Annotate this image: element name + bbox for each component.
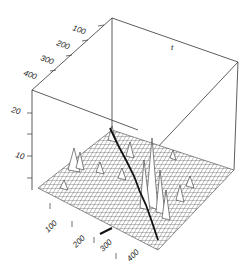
back-tick-200: 200: [54, 38, 71, 52]
back-tick-100: 100: [71, 23, 87, 36]
z-axis: [27, 113, 32, 178]
z-tick-10: 10: [14, 150, 25, 161]
z-tick-20: 20: [10, 105, 22, 116]
back-tick-300: 300: [39, 53, 55, 66]
surface-plot: 100 200 300 400 20 10 100 200 300 400 t: [0, 0, 249, 272]
axis-marker-300: [100, 228, 112, 234]
back-tick-400: 400: [22, 68, 38, 81]
front-tick-100: 100: [43, 218, 59, 234]
annotation-label: t: [171, 43, 174, 52]
front-tick-200: 200: [70, 233, 87, 250]
front-tick-400: 400: [125, 247, 141, 263]
front-tick-300: 300: [98, 237, 114, 253]
